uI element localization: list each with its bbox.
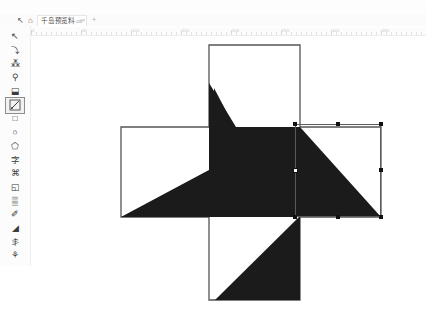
- ruler-tick: [216, 32, 217, 35]
- ruler-tick: [46, 32, 47, 35]
- handle-top-right[interactable]: [379, 122, 383, 126]
- ruler-tick: [396, 32, 397, 35]
- ruler-tick: [111, 32, 112, 35]
- ruler-tick: [311, 32, 312, 35]
- ruler-tick: [366, 32, 367, 35]
- ruler-tick: [276, 32, 277, 35]
- ruler-tick: [166, 32, 167, 35]
- ruler-tick: [156, 32, 157, 35]
- ruler-tick: [211, 32, 212, 35]
- handle-top-left[interactable]: [293, 122, 297, 126]
- ruler-tick: [321, 32, 322, 35]
- ruler-tick: [391, 32, 392, 35]
- rectangle-tool-glyph: □: [12, 114, 17, 123]
- handle-bottom-right[interactable]: [379, 215, 383, 219]
- ruler-tick: [36, 32, 37, 35]
- editor-window: ↖ ⌂ 千岛预览料.cdr × + 050100150200250300350 …: [0, 0, 426, 320]
- ruler-tick: [251, 32, 252, 35]
- freehand-tool-glyph: ⤵: [11, 46, 20, 55]
- handle-top-center[interactable]: [336, 122, 340, 126]
- ruler-tick: [116, 32, 117, 35]
- ruler-tick: [296, 32, 297, 35]
- handle-bottom-center[interactable]: [336, 215, 340, 219]
- ruler-label: 350: [382, 28, 389, 33]
- ruler-tick: [271, 32, 272, 35]
- ruler-tick: [176, 32, 177, 35]
- crop-tool-glyph: ⌘: [11, 169, 20, 178]
- ruler-tick: [291, 32, 292, 35]
- pick-tool-glyph: ↖: [11, 32, 19, 41]
- ruler-tick: [171, 32, 172, 35]
- ruler-tick: [361, 32, 362, 35]
- ruler-tick: [346, 32, 347, 35]
- ruler-tick: [101, 32, 102, 35]
- ruler-tick: [411, 32, 412, 35]
- ruler-tick: [351, 32, 352, 35]
- ruler-tick: [146, 32, 147, 35]
- ruler-label: 50: [82, 28, 87, 33]
- ruler-tick: [416, 32, 417, 35]
- ruler-tick: [306, 32, 307, 35]
- toolbox-panel: ↖⤵⁂⚲⬓□○⬠字⌘◱▒✐◢丯⚘: [0, 26, 31, 266]
- shape-edit-tool-glyph: ⁂: [11, 60, 20, 69]
- pinwheel-blade[interactable]: [209, 83, 236, 127]
- ruler-tick: [66, 32, 67, 35]
- ellipse-tool-glyph: ○: [12, 128, 17, 137]
- dimension-tool-glyph: 丯: [11, 238, 20, 247]
- connector-tool-glyph: ⚘: [11, 251, 19, 260]
- ruler-tick: [371, 32, 372, 35]
- ruler-tick: [51, 32, 52, 35]
- pen-tool-glyph: ✐: [11, 210, 19, 219]
- arrow-cursor-icon: ↖: [16, 16, 24, 25]
- zoom-tool-glyph: ⚲: [12, 73, 19, 82]
- drawing-canvas[interactable]: [32, 36, 426, 320]
- ruler-tick: [226, 32, 227, 35]
- handle-middle-right[interactable]: [379, 168, 383, 172]
- ruler-label: 300: [332, 28, 339, 33]
- window-top-strip: [0, 0, 426, 14]
- new-tab-button[interactable]: +: [90, 16, 98, 24]
- ruler-tick: [141, 32, 142, 35]
- ruler-tick: [326, 32, 327, 35]
- polygon-tool-glyph: ⬠: [11, 142, 19, 151]
- ruler-tick: [341, 32, 342, 35]
- ruler-tick: [241, 32, 242, 35]
- ruler-tick: [421, 32, 422, 35]
- ruler-tick: [256, 32, 257, 35]
- ruler-tick: [376, 32, 377, 35]
- ruler-tick: [161, 32, 162, 35]
- ruler-tick: [301, 32, 302, 35]
- ruler-label: 0: [32, 28, 34, 33]
- ruler-tick: [406, 32, 407, 35]
- ruler-tick: [401, 32, 402, 35]
- ruler-tick: [106, 32, 107, 35]
- blend-tool-glyph: ◱: [11, 183, 20, 192]
- ruler-tick: [266, 32, 267, 35]
- ruler-tick: [121, 32, 122, 35]
- ruler-tick: [196, 32, 197, 35]
- ruler-tick: [126, 32, 127, 35]
- handle-bottom-left[interactable]: [293, 215, 297, 219]
- ruler-tick: [71, 32, 72, 35]
- pinwheel-blade[interactable]: [209, 127, 300, 217]
- ruler-label: 100: [132, 28, 139, 33]
- ruler-tick: [56, 32, 57, 35]
- ruler-label: 150: [182, 28, 189, 33]
- ruler-tick: [191, 32, 192, 35]
- selection-bounding-box[interactable]: [295, 124, 381, 217]
- grid-table-tool-glyph: ▒: [12, 197, 18, 206]
- home-icon[interactable]: ⌂: [26, 16, 35, 25]
- ruler-tick: [221, 32, 222, 35]
- connector-tool[interactable]: ⚘: [5, 247, 25, 264]
- text-tool-glyph: 字: [11, 156, 20, 165]
- fill-bucket-tool-glyph: ⬓: [11, 87, 20, 96]
- ruler-label: 200: [232, 28, 239, 33]
- rotation-center-marker[interactable]: [293, 168, 298, 173]
- horizontal-ruler[interactable]: 050100150200250300350: [31, 27, 426, 36]
- pinwheel-blade[interactable]: [124, 128, 210, 216]
- eyedropper-tool-glyph: ◢: [12, 224, 19, 233]
- ruler-tick: [356, 32, 357, 35]
- ruler-label: 250: [282, 28, 289, 33]
- ruler-tick: [206, 32, 207, 35]
- close-icon[interactable]: ×: [80, 16, 87, 24]
